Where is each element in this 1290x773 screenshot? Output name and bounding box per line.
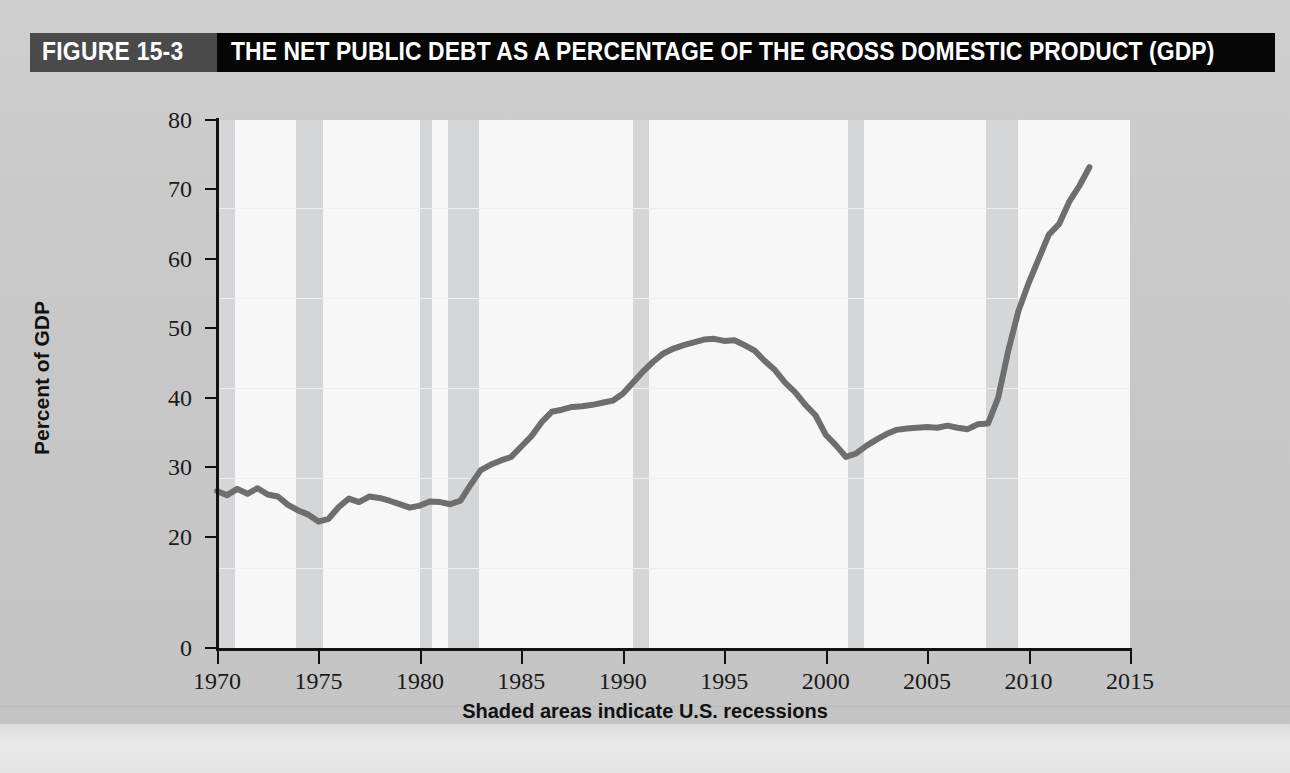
y-axis-tick-label: 80 [168,107,192,134]
debt-line-path [217,167,1089,521]
x-axis-tick-label: 2005 [903,668,951,695]
x-axis-tick [420,651,422,664]
y-axis-tick-label: 50 [168,315,192,342]
y-axis-tick-label: 60 [168,245,192,272]
x-axis-tick-label: 2000 [802,668,850,695]
x-axis-tick-label: 1985 [497,668,545,695]
x-axis-tick [724,651,726,664]
debt-line-series [217,120,1130,648]
x-axis-tick-label: 1975 [294,668,342,695]
x-axis-tick-label: 1990 [599,668,647,695]
y-axis-tick [205,119,216,121]
y-axis-tick [205,466,216,468]
x-axis-tick [1130,651,1132,664]
x-axis-tick [217,651,219,664]
figure-title-label: THE NET PUBLIC DEBT AS A PERCENTAGE OF T… [231,36,1214,67]
y-axis-tick [205,258,216,260]
y-axis-tick-label: 70 [168,176,192,203]
chart-container: Percent of GDP 020304050607080 197019751… [30,78,1275,718]
figure-title-bar: FIGURE 15-3 THE NET PUBLIC DEBT AS A PER… [30,33,1275,72]
chart-footnote: Shaded areas indicate U.S. recessions [0,700,1290,723]
y-axis-tick [205,397,216,399]
y-axis-tick [205,188,216,190]
figure-page: FIGURE 15-3 THE NET PUBLIC DEBT AS A PER… [0,0,1290,773]
y-axis-tick-label: 30 [168,454,192,481]
y-axis-line [216,118,219,650]
y-axis-tick-label: 20 [168,523,192,550]
x-axis-tick [826,651,828,664]
y-axis-tick [205,536,216,538]
x-axis-tick [623,651,625,664]
y-axis-tick [205,327,216,329]
x-axis-tick-label: 1995 [700,668,748,695]
x-axis-tick [521,651,523,664]
x-axis-tick [318,651,320,664]
figure-number-label: FIGURE 15-3 [42,36,184,67]
x-axis-tick [1029,651,1031,664]
figure-title: THE NET PUBLIC DEBT AS A PERCENTAGE OF T… [217,33,1275,72]
x-axis-tick-label: 1980 [396,668,444,695]
x-axis-tick-label: 2010 [1005,668,1053,695]
y-axis-tick [205,647,216,649]
x-axis-tick-label: 1970 [193,668,241,695]
y-axis-tick-label: 40 [168,384,192,411]
plot-area [217,120,1130,648]
x-axis-tick [927,651,929,664]
figure-number-badge: FIGURE 15-3 [30,33,217,72]
page-bottom-margin [0,724,1290,773]
y-axis-ticks: 020304050607080 [30,78,216,718]
x-axis-tick-label: 2015 [1106,668,1154,695]
